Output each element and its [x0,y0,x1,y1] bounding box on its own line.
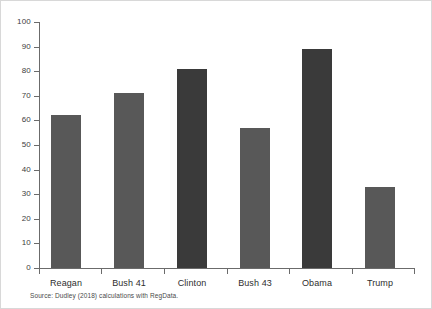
bar-trump[interactable] [365,187,395,268]
x-label-obama: Obama [287,278,347,288]
y-tick-label-70: 70 [0,92,31,100]
x-tick-6 [414,269,415,274]
y-tick-label-10: 10 [0,239,31,247]
y-tick-label-100: 100 [0,18,31,26]
x-label-clinton: Clinton [162,278,222,288]
x-tick-4 [289,269,290,274]
y-tick-30 [34,194,39,195]
x-label-bush-43: Bush 43 [225,278,285,288]
x-label-bush-41: Bush 41 [99,278,159,288]
bar-bush-41[interactable] [114,93,144,268]
y-axis-line [39,22,40,269]
x-tick-3 [227,269,228,274]
y-tick-label-0: 0 [0,264,31,272]
x-label-reagan: Reagan [36,278,96,288]
bar-clinton[interactable] [177,69,207,268]
y-tick-label-30: 30 [0,190,31,198]
chart-page: 100 90 80 70 60 50 40 30 20 10 0 Reagan … [0,0,432,309]
bar-obama[interactable] [302,49,332,268]
y-tick-label-60: 60 [0,116,31,124]
x-tick-5 [352,269,353,274]
y-tick-label-50: 50 [0,141,31,149]
y-tick-20 [34,219,39,220]
x-tick-0 [39,269,40,274]
y-tick-90 [34,47,39,48]
plot-area: 100 90 80 70 60 50 40 30 20 10 0 Reagan … [1,1,432,286]
y-tick-50 [34,145,39,146]
y-tick-label-80: 80 [0,67,31,75]
source-note: Source: Dudley (2018) calculations with … [30,292,178,299]
x-label-trump: Trump [350,278,410,288]
y-tick-10 [34,243,39,244]
y-tick-80 [34,71,39,72]
x-tick-1 [101,269,102,274]
y-tick-label-20: 20 [0,215,31,223]
y-tick-60 [34,120,39,121]
bar-bush-43[interactable] [240,128,270,268]
y-tick-label-90: 90 [0,43,31,51]
x-tick-2 [164,269,165,274]
y-tick-label-40: 40 [0,166,31,174]
y-tick-70 [34,96,39,97]
y-tick-100 [34,22,39,23]
bar-reagan[interactable] [51,115,81,268]
y-tick-40 [34,170,39,171]
